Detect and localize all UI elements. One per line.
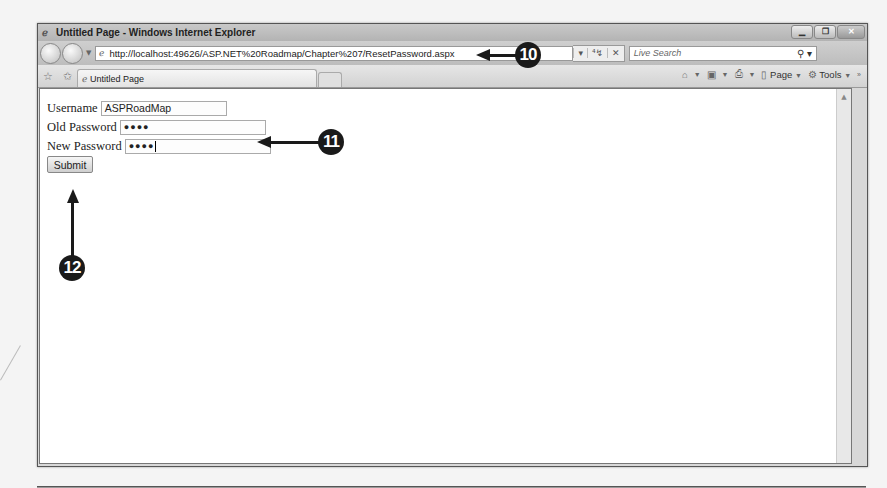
feeds-dropdown-icon[interactable]: ▼: [722, 71, 729, 78]
username-field[interactable]: ASPRoadMap: [101, 101, 227, 116]
search-icon[interactable]: ⚲ ▾: [797, 48, 812, 59]
tools-menu[interactable]: ⚙ Tools ▼: [808, 69, 851, 80]
new-password-value: ●●●●: [129, 141, 155, 151]
new-tab-button[interactable]: [318, 72, 342, 87]
vertical-scrollbar[interactable]: ▲: [836, 89, 851, 463]
address-dropdown-icon[interactable]: ▾: [573, 48, 587, 58]
page-icon: ℯ: [99, 48, 104, 58]
page-menu-icon: ▯: [761, 69, 767, 80]
username-label: Username: [47, 101, 98, 116]
new-password-label: New Password: [47, 139, 122, 154]
tab-untitled-page[interactable]: ℯ Untitled Page: [77, 69, 317, 87]
history-dropdown-icon[interactable]: ▼: [86, 49, 91, 57]
callout-badge-12: 12: [59, 255, 85, 281]
window-title: Untitled Page - Windows Internet Explore…: [56, 27, 255, 38]
title-bar: ℯ Untitled Page - Windows Internet Explo…: [38, 24, 867, 41]
back-button[interactable]: [40, 43, 61, 64]
text-caret: [155, 141, 156, 152]
old-password-label: Old Password: [47, 120, 117, 135]
favorites-star-icon[interactable]: ☆: [43, 70, 53, 83]
tab-bar: ☆ ✩ ℯ Untitled Page ⌂▼ ▣▼ ⎙▼ ▯ Page ▼ ⚙ …: [38, 65, 867, 88]
maximize-button[interactable]: ❐: [814, 25, 836, 39]
old-password-row: Old Password ●●●●: [47, 118, 271, 136]
page-menu-label: Page: [770, 69, 792, 80]
submit-button[interactable]: Submit: [47, 156, 93, 173]
tools-gear-icon: ⚙: [808, 69, 817, 80]
refresh-icon[interactable]: ⁴↯: [587, 48, 607, 58]
address-url: http://localhost:49626/ASP.NET%20Roadmap…: [109, 48, 454, 59]
window-controls: ▁ ❐ ✕: [791, 25, 865, 39]
add-favorites-icon[interactable]: ✩: [63, 70, 72, 83]
reset-password-form: Username ASPRoadMap Old Password ●●●● Ne…: [47, 99, 271, 173]
forward-button[interactable]: [62, 43, 83, 64]
print-icon[interactable]: ⎙: [735, 68, 743, 80]
tools-dropdown-icon: ▼: [844, 72, 851, 79]
callout-arrow-12: [71, 201, 74, 259]
search-box[interactable]: Live Search ⚲ ▾: [629, 46, 817, 61]
old-password-value: ●●●●: [124, 122, 150, 132]
page-menu[interactable]: ▯ Page ▼: [761, 69, 801, 80]
callout-badge-10: 10: [515, 42, 541, 68]
page-content: Username ASPRoadMap Old Password ●●●● Ne…: [39, 88, 852, 464]
new-password-field[interactable]: ●●●●: [125, 139, 271, 154]
username-value: ASPRoadMap: [105, 102, 172, 114]
callout-badge-11: 11: [318, 129, 344, 155]
username-row: Username ASPRoadMap: [47, 99, 271, 117]
feeds-icon[interactable]: ▣: [707, 69, 716, 80]
close-button[interactable]: ✕: [837, 25, 865, 39]
address-tools: ▾ ⁴↯ ✕: [573, 45, 624, 62]
overflow-chevron-icon[interactable]: »: [857, 71, 861, 78]
browser-window: ℯ Untitled Page - Windows Internet Explo…: [37, 23, 868, 467]
new-password-row: New Password ●●●●: [47, 137, 271, 155]
navigation-bar: ▼ ℯ http://localhost:49626/ASP.NET%20Roa…: [38, 41, 867, 65]
page-tab-icon: ℯ: [82, 74, 87, 84]
tab-label: Untitled Page: [90, 74, 144, 84]
command-bar: ⌂▼ ▣▼ ⎙▼ ▯ Page ▼ ⚙ Tools ▼ »: [682, 68, 861, 80]
old-password-field[interactable]: ●●●●: [120, 120, 266, 135]
home-dropdown-icon[interactable]: ▼: [694, 71, 701, 78]
decorative-line: [0, 345, 21, 380]
ie-logo-icon: ℯ: [42, 28, 52, 38]
callout-arrow-11: [269, 141, 323, 144]
print-dropdown-icon[interactable]: ▼: [749, 71, 756, 78]
tools-menu-label: Tools: [819, 69, 841, 80]
search-placeholder: Live Search: [634, 48, 682, 58]
home-icon[interactable]: ⌂: [682, 69, 688, 80]
page-dropdown-icon: ▼: [795, 72, 802, 79]
scroll-up-arrow-icon[interactable]: ▲: [837, 93, 851, 101]
minimize-button[interactable]: ▁: [791, 25, 813, 39]
stop-icon[interactable]: ✕: [607, 48, 624, 58]
address-bar[interactable]: ℯ http://localhost:49626/ASP.NET%20Roadm…: [95, 46, 573, 61]
